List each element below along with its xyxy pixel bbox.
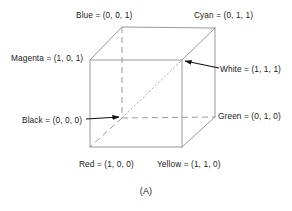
edge-black-green-hidden bbox=[122, 117, 215, 118]
cube-back-face-visible bbox=[122, 27, 215, 117]
cube-drawing bbox=[0, 0, 292, 211]
leader-black bbox=[86, 117, 119, 119]
vertex-label-black: Black = (0, 0, 0) bbox=[22, 115, 82, 125]
vertex-label-red: Red = (1, 0, 0) bbox=[79, 159, 134, 169]
vertex-label-blue: Blue = (0, 0, 1) bbox=[76, 10, 132, 20]
edge-magenta-blue bbox=[90, 27, 122, 60]
rgb-color-cube-figure: Blue = (0, 0, 1) Cyan = (0, 1, 1) Magent… bbox=[0, 0, 292, 211]
cube-gray-diagonal bbox=[122, 60, 182, 118]
cube-hidden-edges bbox=[90, 27, 215, 147]
cube-connecting-edges bbox=[90, 27, 215, 147]
edge-blue-cyan bbox=[122, 27, 215, 28]
edge-black-red-hidden bbox=[90, 118, 122, 147]
edge-yellow-green bbox=[182, 117, 215, 147]
leader-white bbox=[185, 61, 219, 68]
figure-caption: (A) bbox=[0, 186, 292, 196]
vertex-label-green: Green = (0, 1, 0) bbox=[218, 111, 281, 121]
vertex-label-cyan: Cyan = (0, 1, 1) bbox=[194, 10, 253, 20]
vertex-label-magenta: Magenta = (1, 0, 1) bbox=[11, 53, 83, 63]
annotation-leader-lines bbox=[86, 61, 219, 119]
vertex-label-yellow: Yellow = (1, 1, 0) bbox=[157, 159, 221, 169]
edge-white-cyan bbox=[182, 28, 215, 60]
vertex-label-white: White = (1, 1, 1) bbox=[220, 64, 281, 74]
diagonal-black-to-white bbox=[122, 60, 182, 118]
